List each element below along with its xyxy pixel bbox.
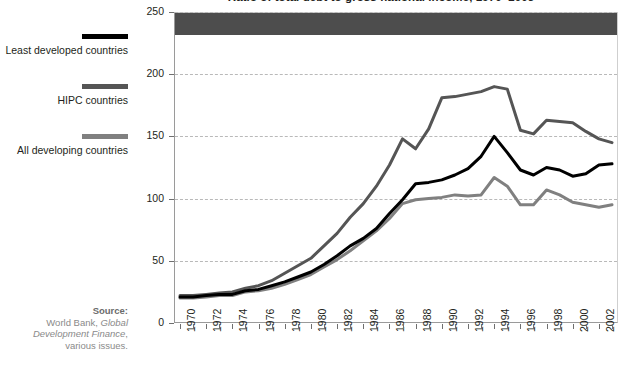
series-line-least-developed-countries bbox=[180, 136, 612, 297]
chart-page: Ratio of total debt to gross national in… bbox=[0, 0, 630, 373]
series-layer bbox=[0, 0, 630, 373]
series-line-all-developing-countries bbox=[180, 178, 612, 299]
plot-wrapper: 0501001502002501970197219741976197819801… bbox=[0, 0, 630, 373]
